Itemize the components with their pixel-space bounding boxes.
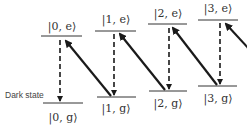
label-1-g: |1, g⟩ [101, 102, 130, 116]
label-0-g: |0, g⟩ [48, 111, 77, 125]
excitation-arrow-3 [173, 28, 217, 85]
excitation-arrow-2 [120, 34, 165, 90]
level-diagram: |0, e⟩ |1, e⟩ |2, e⟩ |3, e⟩ |0, g⟩ |1, g… [0, 0, 247, 128]
label-1-e: |1, e⟩ [102, 13, 131, 27]
label-2-e: |2, e⟩ [154, 7, 183, 21]
label-3-e: |3, e⟩ [204, 2, 233, 16]
dark-state-label: Dark state [5, 90, 44, 100]
label-3-g: |3, g⟩ [203, 92, 232, 106]
excitation-arrow-4 [226, 24, 247, 50]
label-2-g: |2, g⟩ [153, 97, 182, 111]
excitation-arrow-1 [66, 41, 111, 96]
label-0-e: |0, e⟩ [48, 20, 77, 34]
